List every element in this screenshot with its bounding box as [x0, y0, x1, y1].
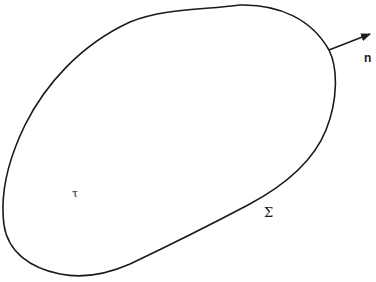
normal-vector-arrow [329, 34, 370, 50]
region-label-tau: τ [72, 188, 78, 199]
diagram-canvas [0, 0, 376, 282]
normal-vector-label: n [364, 52, 371, 64]
boundary-surface-curve [3, 5, 335, 276]
boundary-label-sigma: Σ [264, 206, 273, 219]
